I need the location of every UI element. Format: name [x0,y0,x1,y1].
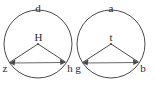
right-radius-to-b [111,44,139,62]
left-point-z-label: z [3,62,8,74]
right-chord-g-b [83,63,139,64]
left-radius-to-h [38,44,66,62]
right-point-g-label: g [75,62,81,74]
left-point-h-label: h [67,62,73,74]
geometry-figure-canvas: d H z h a t g b [0,0,155,86]
right-radius-to-g [83,44,112,63]
figure-svg: d H z h a t g b [0,0,155,86]
left-radius-to-z [10,44,39,63]
right-point-b-label: b [140,62,146,74]
right-arc-label: a [109,2,114,14]
left-center-label: H [35,31,43,43]
right-center-point [110,43,112,45]
left-center-point [37,43,39,45]
left-circle-group: d H z h [3,2,74,78]
left-arc-label: d [35,2,41,14]
right-center-label: t [109,31,112,43]
right-circle-group: a t g b [75,2,146,78]
left-chord-z-h [10,63,66,64]
